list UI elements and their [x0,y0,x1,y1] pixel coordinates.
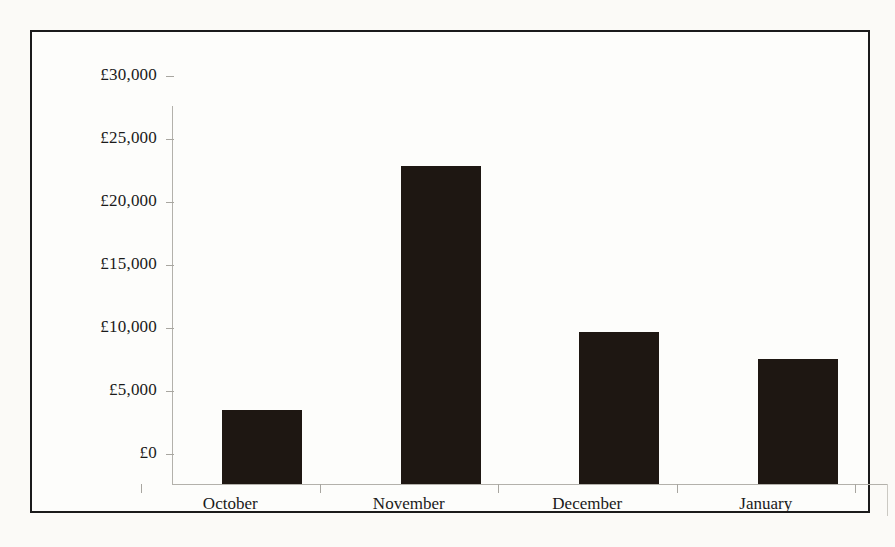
category-separator-tick [498,484,499,493]
chart-frame-border: £30,000£25,000£20,000£15,000£10,000£5,00… [30,30,870,513]
category-separator-tick [320,484,321,493]
category-separator-tick [855,484,856,493]
bar [758,359,838,484]
value-axis-tick-label: £0 [47,443,157,463]
category-axis-label: December [497,494,677,514]
value-axis-tick-label: £30,000 [47,65,157,85]
bar [579,332,659,484]
plot-area [173,106,887,484]
value-axis-tick-label: £5,000 [47,380,157,400]
value-axis-tick-mark [166,76,174,77]
bar [401,166,481,484]
plot-right-edge [887,484,888,516]
category-separator-tick [141,484,142,493]
bar [222,410,302,484]
value-axis-tick-label: £10,000 [47,317,157,337]
category-axis-line [172,484,888,485]
value-axis-tick-label: £20,000 [47,191,157,211]
category-separator-tick [677,484,678,493]
category-axis-label: November [319,494,499,514]
value-axis-tick-label: £25,000 [47,128,157,148]
category-axis-label: January [676,494,856,514]
value-axis-tick-label: £15,000 [47,254,157,274]
category-axis-label: October [140,494,320,514]
bar-chart-figure: £30,000£25,000£20,000£15,000£10,000£5,00… [0,0,895,547]
